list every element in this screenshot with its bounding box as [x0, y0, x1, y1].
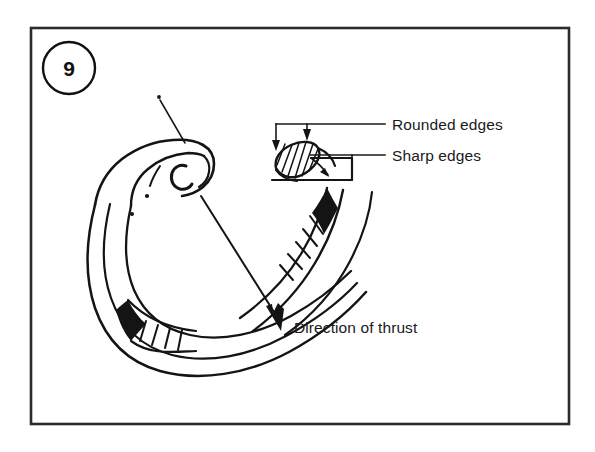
ring-cross-section — [272, 142, 352, 181]
ring-lug-inner-edge — [131, 153, 204, 206]
ring-right-hatch-2 — [303, 229, 317, 246]
technical-diagram: 9 — [0, 0, 595, 452]
rounded-edges-arrowhead-mid — [303, 129, 311, 141]
figure-border — [31, 28, 569, 424]
ring-lug-pointer-line — [157, 95, 185, 143]
ring-bottom-hatch-3 — [165, 328, 170, 348]
figure-panel: 9 — [0, 0, 595, 452]
retaining-ring-drawing — [87, 140, 372, 376]
ring-lug-hole — [171, 165, 192, 189]
lug-pointer-stroke — [160, 100, 185, 143]
ring-right-band-inner — [240, 188, 327, 318]
ring-right-hatch-group — [280, 216, 323, 280]
figure-number-text: 9 — [63, 57, 75, 80]
figure-number-badge: 9 — [43, 42, 95, 94]
sharp-edges-label: Sharp edges — [392, 147, 481, 164]
sharp-edges-callout: Sharp edges — [310, 147, 481, 180]
ring-lug-dot-a — [145, 194, 149, 198]
thrust-arrow-shaft — [201, 196, 274, 312]
rounded-edges-arrowhead-left — [272, 140, 280, 151]
ring-lug-crease-a — [150, 166, 160, 186]
cross-section-hatch-group — [277, 142, 318, 178]
ring-right-hatch-3 — [296, 242, 310, 258]
lug-pointer-dot — [157, 95, 161, 99]
rounded-edges-label: Rounded edges — [392, 116, 503, 133]
ring-bottom-hatch-2 — [152, 325, 158, 345]
direction-of-thrust-label: Direction of thrust — [294, 319, 418, 336]
sharp-edge-indicator-arrowhead — [320, 168, 329, 177]
ring-lug-dot-b — [130, 212, 134, 216]
ring-bottom-hatch-group — [140, 321, 182, 350]
rounded-edges-callout: Rounded edges — [272, 116, 503, 151]
ring-bottom-cut-bottom-edge — [131, 341, 196, 352]
